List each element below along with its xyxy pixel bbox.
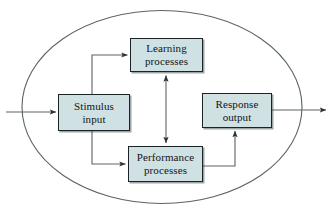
- diagram-canvas: Learning processes Stimulus input Respon…: [0, 0, 333, 214]
- performance-to-response-arrow: [203, 131, 235, 166]
- response-output-label-line-2: output: [223, 111, 252, 124]
- stimulus-input-label-line-1: Stimulus: [74, 100, 114, 113]
- stimulus-to-performance-arrow: [92, 131, 126, 164]
- stimulus-to-learning-arrow: [92, 55, 128, 94]
- learning-processes-label-line-1: Learning: [146, 42, 187, 55]
- response-output-label-line-1: Response: [216, 98, 259, 111]
- learning-processes-label-line-2: processes: [145, 55, 188, 68]
- performance-processes-label-line-2: processes: [144, 164, 187, 177]
- performance-processes-label-line-1: Performance: [137, 151, 194, 164]
- performance-processes-box[interactable]: Performance processes: [128, 146, 203, 182]
- stimulus-input-label-line-2: input: [82, 113, 105, 126]
- stimulus-input-box[interactable]: Stimulus input: [58, 94, 130, 131]
- learning-processes-box[interactable]: Learning processes: [130, 38, 203, 72]
- response-output-box[interactable]: Response output: [202, 93, 272, 128]
